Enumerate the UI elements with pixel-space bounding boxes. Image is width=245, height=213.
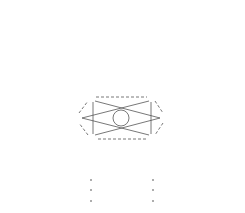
dot xyxy=(152,179,154,181)
continuation-dots xyxy=(90,179,154,202)
hex-edge-10-20 xyxy=(155,123,163,135)
pascal-triangle-diagram xyxy=(0,0,245,213)
hex-edge-5-4 xyxy=(79,101,88,113)
dot xyxy=(90,179,92,181)
center-circle xyxy=(113,110,129,126)
hex-edge-15-5 xyxy=(79,123,88,135)
dot xyxy=(90,189,92,191)
dot xyxy=(152,200,154,202)
dot xyxy=(152,189,154,191)
hexagon-lines xyxy=(79,97,163,139)
dot xyxy=(90,200,92,202)
hex-edge-6-10 xyxy=(155,101,163,113)
